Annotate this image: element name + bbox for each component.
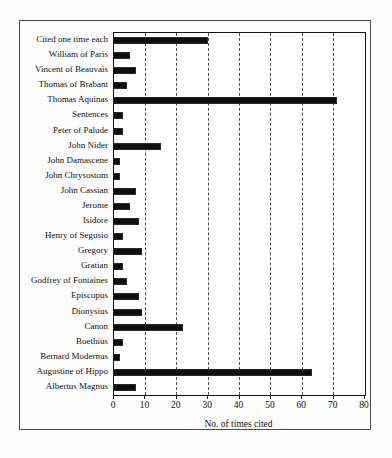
x-tick-label: 30 — [197, 400, 217, 411]
bar — [114, 82, 127, 89]
category-label: Gratian — [22, 260, 108, 271]
bar — [114, 188, 136, 195]
x-tick — [176, 396, 177, 399]
bar — [114, 293, 139, 300]
x-tick — [144, 396, 145, 399]
x-tick-label: 70 — [323, 400, 343, 411]
x-tick-label: 50 — [260, 400, 280, 411]
x-tick — [113, 396, 114, 399]
category-label: Augustine of Hippo — [22, 366, 108, 377]
bar — [114, 369, 312, 376]
category-label: Episcopus — [22, 290, 108, 301]
category-label: Peter of Palude — [22, 125, 108, 136]
bar — [114, 158, 120, 165]
gridline — [333, 33, 334, 395]
bar — [114, 203, 130, 210]
category-label: William of Paris — [22, 49, 108, 60]
bar — [114, 218, 139, 225]
bar — [114, 339, 123, 346]
bar — [114, 384, 136, 391]
category-label: John Nider — [22, 140, 108, 151]
x-tick — [207, 396, 208, 399]
category-label: Sentences — [22, 109, 108, 120]
category-label: Dionysius — [22, 306, 108, 317]
category-label: Bernard Modernus — [22, 351, 108, 362]
gridline — [208, 33, 209, 395]
plot-area — [113, 32, 366, 396]
bar — [114, 278, 127, 285]
bar — [114, 112, 123, 119]
x-tick-label: 20 — [166, 400, 186, 411]
gridline — [302, 33, 303, 395]
category-label: Isidore — [22, 215, 108, 226]
bar — [114, 52, 130, 59]
category-label: Henry of Segusio — [22, 230, 108, 241]
x-tick — [301, 396, 302, 399]
bar — [114, 233, 123, 240]
x-tick-label: 0 — [103, 400, 123, 411]
category-label: Vincent of Beauvais — [22, 64, 108, 75]
gridline — [270, 33, 271, 395]
category-label: Gregory — [22, 245, 108, 256]
category-label: Thomas Aquinas — [22, 94, 108, 105]
category-label: John Cassian — [22, 185, 108, 196]
gridline — [176, 33, 177, 395]
bar — [114, 67, 136, 74]
category-label: Thomas of Brabant — [22, 79, 108, 90]
bar — [114, 37, 208, 44]
category-label: Godfrey of Fontaines — [22, 275, 108, 286]
x-tick-label: 10 — [134, 400, 154, 411]
gridline — [145, 33, 146, 395]
bar — [114, 143, 161, 150]
category-label: Boethius — [22, 336, 108, 347]
bar — [114, 173, 120, 180]
bar — [114, 263, 123, 270]
x-axis-title: No. of times cited — [113, 419, 364, 429]
scanned-page: Cited one time eachWilliam of ParisVince… — [0, 0, 392, 458]
bar — [114, 324, 183, 331]
x-tick — [270, 396, 271, 399]
bar — [114, 128, 123, 135]
bar — [114, 97, 337, 104]
x-tick — [239, 396, 240, 399]
x-tick-label: 80 — [354, 400, 374, 411]
gridline — [239, 33, 240, 395]
x-tick — [364, 396, 365, 399]
category-label: Canon — [22, 321, 108, 332]
category-label: John Damascene — [22, 155, 108, 166]
x-tick-label: 40 — [229, 400, 249, 411]
category-label: Cited one time each — [22, 34, 108, 45]
bar — [114, 309, 142, 316]
category-label: Jerome — [22, 200, 108, 211]
bar — [114, 248, 142, 255]
bar — [114, 354, 120, 361]
category-label: John Chrysostom — [22, 170, 108, 181]
chart-frame: Cited one time eachWilliam of ParisVince… — [19, 20, 371, 430]
x-tick-label: 60 — [291, 400, 311, 411]
category-label: Albertus Magnus — [22, 381, 108, 392]
x-tick — [333, 396, 334, 399]
